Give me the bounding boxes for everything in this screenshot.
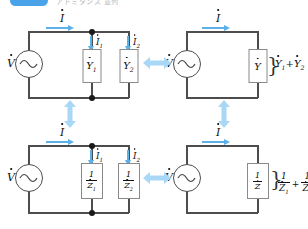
admittance-box-2-sub: 2	[130, 66, 134, 73]
ac-source	[15, 50, 43, 78]
wire-top	[28, 31, 129, 33]
source-label-text: V	[7, 171, 15, 184]
circuit-diagram-canvas: アドミタンス 並列 V I	[0, 0, 308, 229]
admittance-box-1: Y1	[82, 49, 101, 83]
source-label: V	[7, 57, 15, 70]
result-den1-sub: 1	[285, 189, 289, 195]
wire-bottom	[28, 97, 129, 99]
equivalence-arrow-bottom-horizontal	[143, 170, 171, 186]
impedance-box-total-fraction: 1 Z	[253, 172, 262, 191]
impedance-box-1-denominator: Z	[87, 182, 93, 190]
branch1-current-label-text: I	[96, 151, 100, 161]
impedance-box-total: 1 Z	[247, 163, 269, 199]
equivalence-arrow-right-vertical	[216, 100, 232, 128]
branch1-current-sub: 1	[100, 43, 104, 49]
impedance-box-1: 1 Z1	[81, 163, 103, 199]
node-top	[89, 29, 95, 35]
admittance-box-1-label: Y1	[86, 60, 97, 73]
wire-top	[186, 31, 258, 33]
branch1-current-label-text: I	[96, 37, 100, 47]
admittance-box-2-label: Y2	[123, 60, 134, 73]
wire-bottom	[186, 212, 258, 214]
result-den1-wrap: Z1	[278, 184, 290, 195]
header-faint-text: アドミタンス 並列	[56, 0, 119, 6]
main-current-label: I	[216, 12, 220, 25]
main-current-label-text: I	[60, 12, 64, 25]
main-current-arrow	[202, 139, 232, 145]
impedance-box-total-denominator: Z	[255, 183, 261, 191]
wire-top	[186, 145, 258, 147]
impedance-box-total-numerator: 1	[254, 172, 261, 180]
node-top	[89, 143, 95, 149]
panel-bottom-left: V I I1 I2 1 Z1	[0, 120, 154, 229]
panel-bottom-right: V I 1 Z } 1 Z1 + 1	[154, 120, 308, 229]
main-current-arrow	[46, 25, 76, 31]
impedance-box-1-sub: 1	[93, 185, 96, 191]
branch2-current-label: I2	[133, 151, 140, 163]
header-badge	[10, 0, 48, 6]
result-plus: +	[286, 58, 294, 69]
page-header-strip: アドミタンス 並列	[0, 0, 308, 9]
admittance-box-2-symbol: Y	[123, 60, 130, 71]
impedance-box-2-numerator: 1	[125, 171, 132, 179]
result-plus: +	[290, 179, 302, 189]
impedance-box-1-fraction: 1 Z1	[86, 171, 97, 192]
branch2-current-sub: 2	[137, 43, 141, 49]
source-label-text: V	[7, 57, 15, 70]
equivalence-arrow-top-horizontal	[143, 55, 171, 71]
result-num2: 1	[303, 172, 308, 181]
wire-bottom	[28, 212, 129, 214]
result-den1: Z	[279, 184, 285, 193]
result-term2-symbol: Y	[294, 58, 301, 69]
impedance-box-1-denominator-wrap: Z1	[86, 182, 97, 192]
impedance-box-total-denominator-wrap: Z	[254, 183, 262, 191]
wire-bottom	[186, 97, 258, 99]
result-den2-wrap: Z2	[301, 184, 308, 195]
admittance-box-total: Y	[248, 49, 267, 83]
branch1-current-label: I1	[96, 37, 103, 49]
result-num1: 1	[280, 172, 288, 181]
main-current-label-text: I	[216, 12, 220, 25]
branch2-current-label-text: I	[133, 37, 137, 47]
admittance-box-total-symbol: Y	[254, 61, 261, 72]
equivalence-expression: Y1+Y2	[275, 58, 304, 71]
impedance-box-2-denominator-wrap: Z2	[123, 182, 134, 192]
impedance-box-2-fraction: 1 Z2	[123, 171, 134, 192]
wire-top	[28, 145, 129, 147]
branch1-current-sub: 1	[100, 157, 104, 163]
result-term2-sub: 2	[301, 64, 305, 71]
branch2-current-label-text: I	[133, 151, 137, 161]
result-fraction-2: 1 Z2	[301, 172, 308, 195]
result-den2: Z	[302, 184, 308, 193]
result-fraction-1: 1 Z1	[278, 172, 290, 195]
equivalence-arrow-left-vertical	[62, 100, 78, 128]
node-bottom	[89, 210, 95, 216]
branch2-current-label: I2	[133, 37, 140, 49]
admittance-box-total-label: Y	[254, 61, 261, 72]
admittance-box-1-symbol: Y	[86, 60, 93, 71]
result-term1-symbol: Y	[275, 58, 282, 69]
admittance-box-2: Y2	[119, 49, 138, 83]
impedance-box-2-sub: 2	[130, 185, 133, 191]
node-bottom	[89, 95, 95, 101]
branch2-current-sub: 2	[137, 157, 141, 163]
main-current-arrow	[202, 25, 232, 31]
equivalence-expression: 1 Z1 + 1 Z2	[278, 172, 308, 195]
impedance-box-2-denominator: Z	[124, 182, 130, 190]
ac-source	[15, 164, 43, 192]
main-current-arrow	[46, 139, 76, 145]
impedance-box-1-numerator: 1	[88, 171, 95, 179]
branch1-current-label: I1	[96, 151, 103, 163]
impedance-box-2: 1 Z2	[118, 163, 140, 199]
source-label: V	[7, 171, 15, 184]
main-current-label: I	[60, 12, 64, 25]
ac-source	[173, 164, 201, 192]
admittance-box-1-sub: 1	[93, 66, 97, 73]
ac-source	[173, 50, 201, 78]
